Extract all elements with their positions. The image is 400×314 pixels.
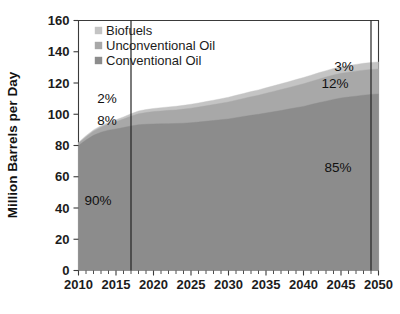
legend-label-biofuels: Biofuels [106, 23, 153, 38]
x-tick-label-2010: 2010 [64, 277, 93, 292]
y-tick-label-160: 160 [48, 13, 70, 28]
stacked-area-chart: 020406080100120140160 201020152020202520… [0, 0, 400, 314]
x-tick-label-2030: 2030 [214, 277, 243, 292]
x-axis-tick-labels: 201020152020202520302035204020452050 [64, 277, 393, 292]
x-tick-label-2040: 2040 [289, 277, 318, 292]
y-tick-label-80: 80 [55, 138, 69, 153]
chart-figure: 020406080100120140160 201020152020202520… [0, 0, 400, 314]
x-tick-label-2015: 2015 [102, 277, 131, 292]
annotation-unconventional-right: 12% [321, 76, 348, 91]
legend-swatch-unconventional-oil [95, 42, 102, 49]
annotation-conventional-right: 85% [324, 160, 351, 175]
y-axis-title: Million Barrels per Day [5, 71, 20, 218]
annotation-conventional-left: 90% [84, 193, 111, 208]
y-tick-label-100: 100 [48, 107, 70, 122]
x-tick-label-2050: 2050 [364, 277, 393, 292]
legend-swatch-biofuels [95, 27, 102, 34]
x-tick-label-2025: 2025 [177, 277, 206, 292]
y-tick-label-120: 120 [48, 76, 70, 91]
annotation-unconventional-left: 8% [97, 113, 117, 128]
annotation-biofuels-left: 2% [97, 91, 117, 106]
y-tick-label-20: 20 [55, 232, 69, 247]
legend-label-unconventional-oil: Unconventional Oil [106, 38, 215, 53]
x-tick-label-2035: 2035 [252, 277, 281, 292]
y-tick-label-140: 140 [48, 44, 70, 59]
y-tick-label-60: 60 [55, 169, 69, 184]
x-tick-label-2020: 2020 [139, 277, 168, 292]
y-tick-label-40: 40 [55, 201, 69, 216]
x-tick-label-2045: 2045 [327, 277, 356, 292]
legend-swatch-conventional-oil [95, 57, 102, 64]
annotation-biofuels-right: 3% [334, 59, 354, 74]
legend-label-conventional-oil: Conventional Oil [106, 53, 201, 68]
